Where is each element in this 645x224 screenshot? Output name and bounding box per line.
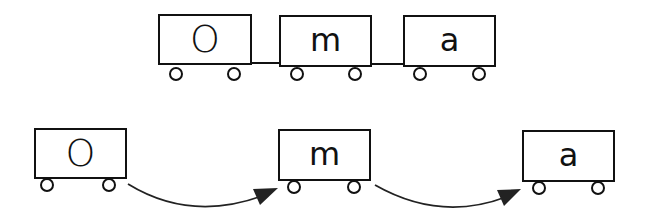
wheel-icon — [170, 68, 182, 80]
wheel-icon — [41, 179, 53, 191]
arrow-curve — [375, 185, 506, 207]
car-letter: a — [404, 24, 495, 56]
car-letter: m — [280, 24, 371, 56]
wheel-icon — [291, 68, 303, 80]
wheel-icon — [414, 68, 426, 80]
car-letter: a — [523, 139, 614, 171]
arrow-icon — [128, 184, 278, 207]
car-letter: O — [35, 134, 126, 172]
arrowhead-icon — [497, 189, 521, 206]
wheel-icon — [228, 68, 240, 80]
car-letter: O — [159, 20, 251, 58]
car-letter: m — [279, 138, 370, 170]
diagram-canvas: O m a O m a — [0, 0, 645, 224]
wheel-icon — [348, 181, 360, 193]
wheel-icon — [592, 182, 604, 194]
wheel-icon — [103, 179, 115, 191]
wheel-icon — [349, 68, 361, 80]
arrow-icon — [375, 185, 521, 207]
arrow-curve — [128, 184, 262, 207]
wheel-icon — [473, 68, 485, 80]
wheel-icon — [533, 182, 545, 194]
arrowhead-icon — [253, 188, 278, 205]
wheel-icon — [288, 181, 300, 193]
